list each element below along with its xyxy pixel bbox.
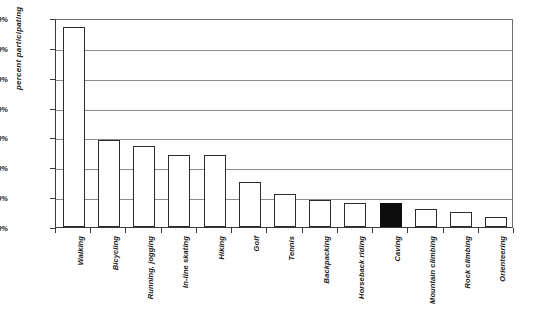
y-tick-label: 60% [0,44,8,53]
x-tick-mark [513,228,514,233]
x-tick-mark [337,228,338,233]
y-tick-label: 70% [0,15,8,24]
x-label: Caving [393,236,402,262]
bar-rock-climbing [450,212,472,227]
bar-orienteering [485,217,507,227]
x-tick-mark [161,228,162,233]
bar-in-line-skating [168,155,190,227]
x-tick-mark [302,228,303,233]
bar-tennis [274,194,296,227]
x-tick-mark [90,228,91,233]
x-label: Horseback riding [357,236,366,299]
bar-hiking [204,155,226,227]
x-tick-mark [372,228,373,233]
x-label: Mountain climbing [428,236,437,304]
gridline [56,139,512,140]
bar-walking [63,27,85,227]
x-tick-mark [125,228,126,233]
x-label: Golf [252,236,261,251]
y-tick-label: 0% [0,224,8,233]
bar-chart: percent participating 0%10%20%30%40%50%6… [0,0,535,325]
y-tick-label: 40% [0,104,8,113]
bar-horseback-riding [344,203,366,227]
bar-backpacking [309,200,331,227]
x-label: Orienteering [498,236,507,282]
bar-golf [239,182,261,227]
gridline [56,110,512,111]
y-axis-title: percent participating [14,0,23,90]
x-tick-mark [55,228,56,233]
x-label: Walking [76,236,85,265]
x-label: Backpacking [322,236,331,283]
x-tick-mark [266,228,267,233]
x-tick-mark [231,228,232,233]
bar-caving [380,203,402,227]
plot-area [55,19,513,228]
x-label: Tennis [287,236,296,261]
bar-mountain-climbing [415,209,437,227]
x-label: Hiking [217,236,226,260]
x-tick-mark [478,228,479,233]
bar-bicycling [98,140,120,227]
x-label: Rock climbing [463,236,472,289]
gridline [56,169,512,170]
y-tick-label: 10% [0,194,8,203]
bar-running-jogging [133,146,155,227]
x-tick-mark [407,228,408,233]
y-tick-label: 50% [0,74,8,83]
x-tick-mark [196,228,197,233]
x-label: In-line skating [181,236,190,288]
gridline [56,80,512,81]
y-tick-label: 20% [0,164,8,173]
x-label: Bicycling [111,236,120,270]
x-tick-mark [443,228,444,233]
gridline [56,50,512,51]
x-label: Running, jogging [146,236,155,299]
y-tick-label: 30% [0,134,8,143]
